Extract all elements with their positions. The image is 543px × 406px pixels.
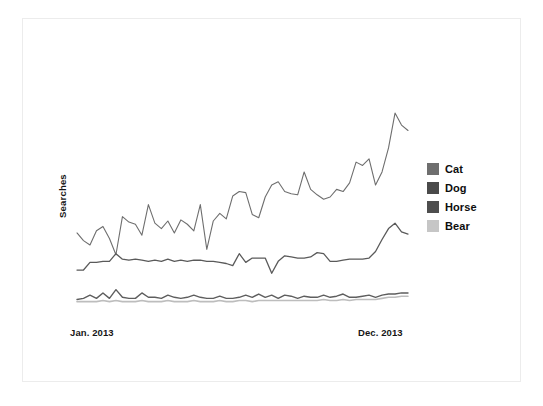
legend-label-horse: Horse (445, 201, 477, 213)
y-axis-label: Searches (54, 148, 70, 244)
legend-swatch-dog (427, 182, 439, 194)
chart-legend: Cat Dog Horse Bear (427, 162, 477, 233)
legend-item-dog[interactable]: Dog (427, 181, 477, 195)
x-axis-start-label: Jan. 2013 (70, 327, 114, 338)
legend-label-dog: Dog (445, 182, 467, 194)
legend-item-horse[interactable]: Horse (427, 200, 477, 214)
legend-item-cat[interactable]: Cat (427, 162, 477, 176)
legend-label-cat: Cat (445, 163, 463, 175)
x-axis-end-label: Dec. 2013 (358, 327, 403, 338)
legend-swatch-bear (427, 220, 439, 232)
legend-label-bear: Bear (445, 220, 470, 232)
legend-item-bear[interactable]: Bear (427, 219, 477, 233)
legend-swatch-cat (427, 163, 439, 175)
legend-swatch-horse (427, 201, 439, 213)
